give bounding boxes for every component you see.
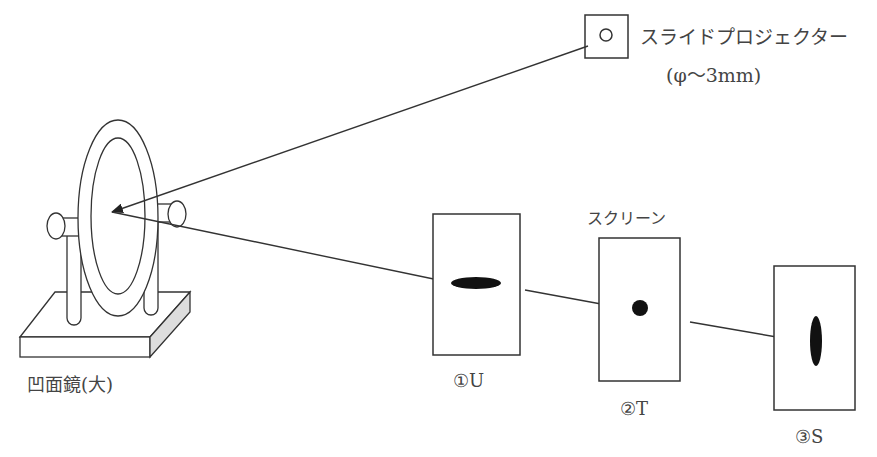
screen-t <box>599 238 680 381</box>
mirror-label: 凹面鏡(大) <box>27 370 113 396</box>
screen-s <box>774 266 855 410</box>
screen-u-label: ①U <box>453 370 484 391</box>
projector-label: スライドプロジェクター <box>640 22 848 49</box>
projector-icon <box>585 15 628 58</box>
projector-spec: (φ〜3mm) <box>666 60 761 87</box>
concave-mirror-icon <box>20 120 190 357</box>
screen-u <box>433 214 520 355</box>
screen-s-label: ③S <box>795 426 823 447</box>
screen-t-label: ②T <box>620 398 648 419</box>
screen-caption: スクリーン <box>587 205 666 229</box>
